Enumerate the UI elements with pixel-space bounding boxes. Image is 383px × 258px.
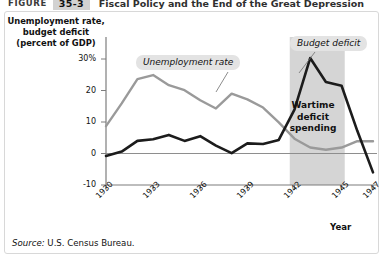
- callout-unemployment-rate: Unemployment rate: [136, 55, 240, 70]
- y-axis-tick-label: 30%: [70, 54, 96, 63]
- x-axis-title: Year: [330, 222, 351, 232]
- callout-budget-deficit: Budget deficit: [290, 36, 367, 51]
- y-axis-tick-label: -10: [70, 180, 96, 189]
- label-wartime-deficit-spending: Wartime deficit spending: [283, 100, 343, 135]
- y-axis-tick-label: 10: [70, 117, 96, 126]
- y-axis-tick-label: 0: [70, 149, 96, 158]
- source-prefix: Source:: [12, 238, 45, 248]
- y-axis-tick-label: 20: [70, 86, 96, 95]
- figure-container: FIGURE 35-3 Fiscal Policy and the End of…: [0, 0, 383, 258]
- leader-line-unemployment: [216, 72, 228, 92]
- source-note: Source: U.S. Census Bureau.: [12, 238, 135, 248]
- source-text: U.S. Census Bureau.: [47, 238, 134, 248]
